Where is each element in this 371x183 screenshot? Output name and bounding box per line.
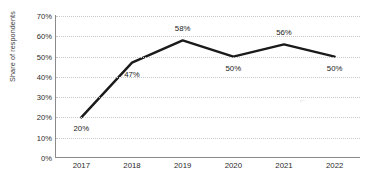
line-chart: Share of respondents 0%10%20%30%40%50%60… <box>0 0 371 183</box>
data-point-label: 20% <box>74 124 90 133</box>
x-axis-tick-label: 2021 <box>275 161 292 170</box>
data-point-label: 56% <box>276 28 292 37</box>
gridline <box>56 57 360 58</box>
y-axis-tick-label: 50% <box>18 52 52 61</box>
gridline <box>56 117 360 118</box>
y-axis-tick-label: 0% <box>18 154 52 163</box>
gridline <box>56 16 360 17</box>
gridline <box>56 77 360 78</box>
x-axis-tick-label: 2018 <box>123 161 140 170</box>
x-axis-tick-label: 2022 <box>326 161 343 170</box>
y-axis-tick-label: 10% <box>18 133 52 142</box>
x-axis-tick-label: 2017 <box>73 161 90 170</box>
y-axis-tick-label: 70% <box>18 12 52 21</box>
x-axis-tick-label: 2019 <box>174 161 191 170</box>
y-axis-tick-label: 40% <box>18 72 52 81</box>
gridline <box>56 36 360 37</box>
series-line-share-of-respondents <box>56 16 360 158</box>
gridline <box>56 97 360 98</box>
y-axis-tick-label: 20% <box>18 113 52 122</box>
plot-area <box>56 16 360 158</box>
data-point-label: 50% <box>327 64 343 73</box>
data-point-label: 50% <box>226 64 242 73</box>
data-point-label: 47% <box>124 70 140 79</box>
y-axis-tick-label: 30% <box>18 93 52 102</box>
data-point-label: 58% <box>175 24 191 33</box>
watermark-artifact: ⌐ <box>300 95 305 105</box>
x-axis-tick-label: 2020 <box>225 161 242 170</box>
y-axis-tick-label: 60% <box>18 32 52 41</box>
gridline <box>56 138 360 139</box>
y-axis-tick-labels: 0%10%20%30%40%50%60%70% <box>12 0 52 183</box>
